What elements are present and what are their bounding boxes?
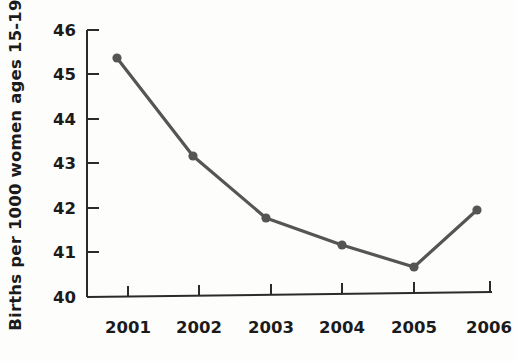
y-tick-label-42: 42 bbox=[42, 199, 76, 218]
y-tick-label-46: 46 bbox=[42, 21, 76, 40]
y-tick-label-41: 41 bbox=[42, 243, 76, 262]
chart-svg bbox=[0, 0, 516, 361]
x-tick-label-2004: 2004 bbox=[319, 318, 365, 337]
data-point-2003 bbox=[261, 213, 270, 222]
x-axis-line bbox=[87, 292, 492, 297]
data-point-2006 bbox=[472, 205, 481, 214]
chart-page: Births per 1000 women ages 15-19 bbox=[0, 0, 516, 361]
x-tick-label-2006: 2006 bbox=[466, 318, 512, 337]
x-tick-label-2003: 2003 bbox=[248, 318, 294, 337]
x-tick-label-2005: 2005 bbox=[391, 318, 437, 337]
y-tick-label-40: 40 bbox=[42, 288, 76, 307]
y-tick-label-43: 43 bbox=[42, 154, 76, 173]
x-tick-label-2001: 2001 bbox=[105, 318, 151, 337]
data-point-2002 bbox=[188, 151, 197, 160]
y-tick-label-45: 45 bbox=[42, 65, 76, 84]
data-line-series-1 bbox=[117, 58, 477, 267]
y-tick-label-44: 44 bbox=[42, 110, 76, 129]
data-point-2005 bbox=[409, 262, 418, 271]
y-tick-marks bbox=[87, 30, 99, 252]
x-tick-label-2002: 2002 bbox=[176, 318, 222, 337]
plot-area: 46 45 44 43 42 41 40 2001 2002 2003 2004… bbox=[0, 0, 516, 361]
data-point-2004 bbox=[337, 240, 346, 249]
data-point-markers bbox=[112, 53, 481, 271]
data-point-2001 bbox=[112, 53, 121, 62]
